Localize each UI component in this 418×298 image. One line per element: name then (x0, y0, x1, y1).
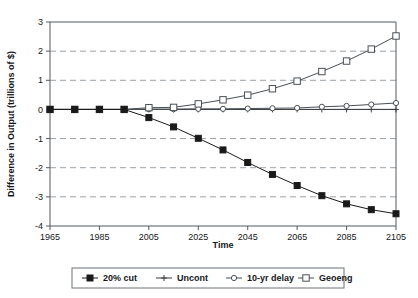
x-tick-label-1985: 1985 (89, 232, 109, 242)
series-10-yr-delay-marker-8 (245, 106, 250, 111)
x-tick-label-2085: 2085 (337, 232, 357, 242)
series-geoeng-marker-6 (195, 101, 201, 107)
series-20-cut-marker-9 (269, 171, 275, 177)
y-tick-label-2: 2 (38, 46, 43, 56)
series-20-cut-marker-5 (171, 124, 177, 130)
series-20-cut-marker-12 (344, 201, 350, 207)
y-tick-label--4: -4 (35, 221, 43, 231)
series-geoeng-marker-4 (146, 104, 152, 110)
y-tick-label--3: -3 (35, 192, 43, 202)
chart-background (0, 0, 418, 298)
series-10-yr-delay-marker-12 (344, 103, 349, 108)
y-tick-label-0: 0 (38, 105, 43, 115)
series-20-cut-marker-4 (146, 115, 152, 121)
series-geoeng-marker-13 (368, 46, 374, 52)
series-20-cut-marker-8 (245, 159, 251, 165)
x-tick-label-2045: 2045 (238, 232, 258, 242)
legend-sample-marker-0 (87, 275, 93, 281)
chart-legend: 20% cutUncont10-yr delayGeoeng (72, 268, 353, 288)
legend-label-0: 20% cut (103, 273, 137, 283)
y-tick-label-1: 1 (38, 75, 43, 85)
series-10-yr-delay-marker-14 (393, 100, 398, 105)
y-tick-label--2: -2 (35, 163, 43, 173)
y-tick-label--1: -1 (35, 134, 43, 144)
series-10-yr-delay-marker-11 (319, 104, 324, 109)
series-20-cut-marker-3 (121, 106, 127, 112)
series-geoeng-marker-11 (319, 68, 325, 74)
difference-in-output-line-chart: 3210-1-2-3-4 196519852005202520452065208… (0, 0, 418, 298)
series-20-cut-marker-11 (319, 193, 325, 199)
series-geoeng-marker-5 (170, 104, 176, 110)
series-geoeng-marker-14 (393, 33, 399, 39)
series-10-yr-delay-marker-7 (220, 106, 225, 111)
legend-label-1: Uncont (177, 273, 208, 283)
x-tick-label-2065: 2065 (287, 232, 307, 242)
series-10-yr-delay-marker-9 (270, 106, 275, 111)
y-tick-label-3: 3 (38, 17, 43, 27)
series-geoeng-marker-9 (269, 86, 275, 92)
series-10-yr-delay-marker-10 (295, 105, 300, 110)
x-tick-label-2005: 2005 (139, 232, 159, 242)
series-20-cut-marker-10 (294, 182, 300, 188)
series-geoeng-marker-10 (294, 78, 300, 84)
series-20-cut-marker-7 (220, 147, 226, 153)
series-20-cut-marker-0 (47, 106, 53, 112)
x-tick-label-2105: 2105 (386, 232, 406, 242)
series-20-cut-marker-14 (393, 211, 399, 217)
x-axis-title: Time (213, 240, 234, 250)
series-geoeng-marker-7 (220, 97, 226, 103)
series-20-cut-marker-2 (96, 106, 102, 112)
chart-figure: 3210-1-2-3-4 196519852005202520452065208… (0, 0, 418, 298)
x-tick-label-1965: 1965 (40, 232, 60, 242)
y-axis-title: Difference in Output (trillions of $) (6, 51, 16, 197)
series-geoeng-marker-8 (245, 92, 251, 98)
series-geoeng-marker-12 (343, 58, 349, 64)
x-tick-label-2025: 2025 (188, 232, 208, 242)
legend-sample-marker-3 (303, 275, 309, 281)
legend-label-3: Geoeng (319, 273, 353, 283)
series-20-cut-marker-13 (368, 207, 374, 213)
series-20-cut-marker-6 (195, 135, 201, 141)
legend-sample-marker-2 (231, 275, 236, 280)
series-10-yr-delay-marker-13 (369, 102, 374, 107)
legend-label-2: 10-yr delay (247, 273, 294, 283)
series-20-cut-marker-1 (72, 106, 78, 112)
